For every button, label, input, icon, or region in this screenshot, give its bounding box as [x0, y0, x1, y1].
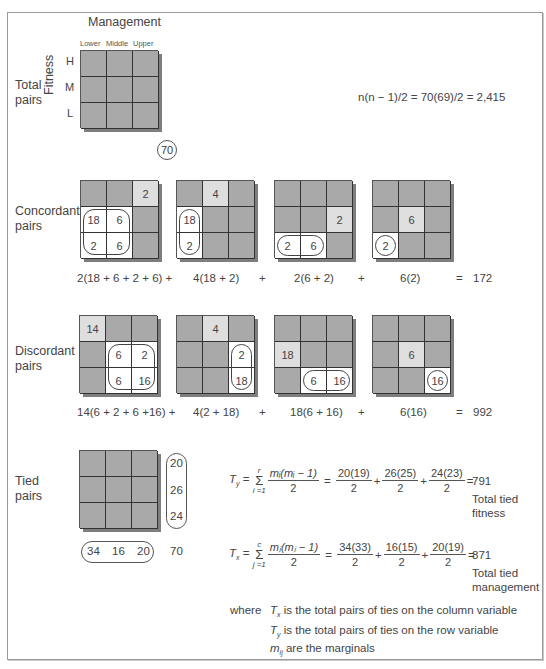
grid-cell: 16 [425, 368, 451, 394]
grid-cell [106, 477, 132, 503]
grid-cell: 18 [275, 342, 301, 368]
grid-cell [301, 316, 327, 342]
ty-caption-line1: Total tied [472, 492, 518, 506]
sigma-icon: rΣi =1 [253, 467, 266, 495]
column-level-upper: Upper [133, 39, 153, 48]
col-marginal-lower: 34 [87, 545, 100, 557]
grid-cell [229, 181, 255, 207]
grid-cell: 18 [81, 207, 107, 233]
row-level-m: M [65, 81, 74, 93]
grid-cell: 6 [301, 368, 327, 394]
grid-cell [81, 77, 107, 103]
concordant-term-3: 2(6 + 2) [294, 272, 334, 284]
grid-cell: 6 [399, 342, 425, 368]
grid-cell [275, 368, 301, 394]
tx-caption-line2: management [472, 580, 539, 594]
grid-cell [133, 77, 159, 103]
grid-cell [327, 181, 353, 207]
ty-denominator: 2 [290, 481, 296, 495]
grid-cell [80, 503, 106, 529]
discordant-total: 992 [473, 406, 492, 418]
legend-tx-symbol: T [270, 604, 277, 616]
tx-frac1-den: 2 [352, 555, 358, 569]
concordant-term-1: 2(18 + 6 + 2 + 6) + [77, 272, 172, 284]
row-marginal-m: 26 [170, 484, 183, 496]
grid-cell: 4 [203, 316, 229, 342]
grid-cell [373, 368, 399, 394]
grid-cells [79, 450, 157, 528]
column-level-lower: Lower [80, 39, 100, 48]
ty-symbol: T [229, 473, 236, 485]
grid-cell: 2 [177, 233, 203, 259]
grid-cell [327, 316, 353, 342]
tx-fraction-2: 16(15)2 [384, 540, 420, 569]
grid-cell [373, 207, 399, 233]
tied-label-line1: Tied [15, 474, 42, 489]
total-pairs-grid [80, 50, 158, 128]
grid-cell [203, 342, 229, 368]
concordant-grid-3: 2 26 [274, 180, 352, 258]
grid-cell [275, 207, 301, 233]
grid-cells: 6 2 [372, 180, 450, 258]
grid-cell [373, 181, 399, 207]
row-level-h: H [66, 55, 74, 67]
legend-mij-text: are the marginals [283, 642, 375, 654]
n-total-circle: 70 [157, 140, 177, 160]
grid-cell [80, 451, 106, 477]
ty-fraction-3: 24(23)2 [429, 466, 465, 495]
ty-frac1-num: 20(19) [336, 466, 372, 481]
grid-cells: 6 16 [372, 315, 450, 393]
grid-cell [133, 233, 159, 259]
row-level-l: L [67, 107, 73, 119]
grid-cell: 6 [301, 233, 327, 259]
ty-frac3-den: 2 [444, 481, 450, 495]
ty-fraction-1: 20(19)2 [336, 466, 372, 495]
grid-cell [399, 233, 425, 259]
concordant-total: 172 [473, 272, 492, 284]
grid-cell [327, 342, 353, 368]
ty-frac3-num: 24(23) [429, 466, 465, 481]
grid-cell [106, 503, 132, 529]
ty-frac2-den: 2 [397, 481, 403, 495]
grid-cell [203, 233, 229, 259]
tx-subscript: x [236, 555, 240, 562]
ty-result: 791 [472, 475, 491, 487]
grand-total: 70 [170, 545, 183, 557]
legend-ty-text: is the total pairs of ties on the row va… [281, 624, 499, 636]
grid-cell [132, 477, 158, 503]
grid-cell [132, 451, 158, 477]
grid-cell [80, 477, 106, 503]
grid-cell: 18 [229, 368, 255, 394]
tied-pairs-label: Tied pairs [15, 474, 42, 504]
total-pairs-label-line1: Total [15, 78, 42, 93]
grid-cell [229, 233, 255, 259]
legend-mij-symbol: m [270, 642, 280, 654]
tx-denominator: 2 [291, 555, 297, 569]
grid-cell: 2 [373, 233, 399, 259]
grid-cell [133, 103, 159, 129]
ty-numerator: mᵢ(mᵢ − 1) [268, 466, 319, 481]
tx-sum-bottom: j =1 [253, 561, 266, 569]
grid-cells: 2 26 [274, 180, 352, 258]
grid-cell: 2 [132, 342, 158, 368]
discordant-grid-4: 6 16 [372, 315, 450, 393]
grid-cell [177, 316, 203, 342]
discordant-term-2: 4(2 + 18) [193, 406, 239, 418]
row-marginal-h: 20 [170, 457, 183, 469]
grid-cell: 16 [132, 368, 158, 394]
legend-line-mij: mij are the marginals [270, 642, 375, 656]
grid-cell [301, 342, 327, 368]
legend-line-tx: Tx is the total pairs of ties on the col… [270, 604, 517, 618]
grid-cell [203, 207, 229, 233]
tx-caption: Total tied management [472, 566, 539, 594]
grid-cell [107, 103, 133, 129]
concordant-label-line2: pairs [15, 219, 80, 234]
grid-cell [275, 316, 301, 342]
grid-cell [107, 77, 133, 103]
ty-subscript: y [236, 481, 240, 488]
grid-cell [425, 181, 451, 207]
grid-cell [177, 181, 203, 207]
legend-where: where [230, 604, 261, 616]
tied-label-line2: pairs [15, 489, 42, 504]
tx-caption-line1: Total tied [472, 566, 539, 580]
